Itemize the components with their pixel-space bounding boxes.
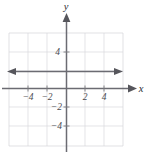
y-axis-label: y [63, 1, 69, 12]
line-arrow-left-icon [7, 68, 16, 75]
plotted-line-series [7, 68, 123, 75]
x-tick-label-neg2: −2 [41, 92, 52, 102]
axis-names: x y [63, 1, 144, 94]
line-arrow-right-icon [114, 68, 123, 75]
x-tick-label-pos4: 4 [102, 92, 107, 102]
x-tick-label-pos2: 2 [83, 92, 88, 102]
y-tick-label-neg2: −2 [51, 102, 62, 112]
x-axis-label: x [138, 83, 144, 94]
axes [2, 13, 137, 152]
coordinate-plane-figure: −4 −2 2 4 4 −2 −4 x y [0, 0, 147, 155]
y-tick-label-neg4: −4 [51, 121, 62, 131]
y-axis-arrow-icon [63, 13, 71, 22]
graph-canvas: −4 −2 2 4 4 −2 −4 x y [0, 0, 147, 155]
x-axis-arrow-icon [128, 85, 137, 93]
y-tick-label-pos4: 4 [55, 47, 60, 57]
x-tick-label-neg4: −4 [22, 92, 33, 102]
